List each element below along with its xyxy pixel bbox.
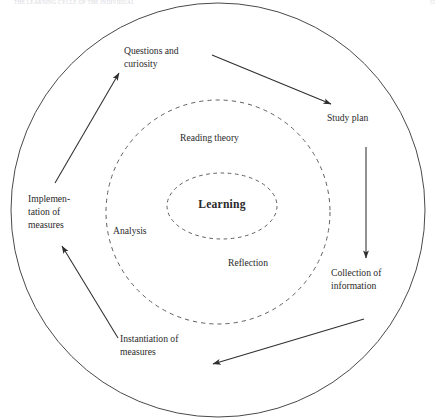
label-reading-theory: Reading theory [180,131,280,144]
label-questions-and-curiosity: Questions and curiosity [124,44,220,70]
arrow-instantiation-to-implementation [62,246,118,338]
label-collection-of-information: Collection of information [331,266,413,292]
label-learning-center: Learning [166,198,278,211]
arrow-collection-to-instantiation [213,319,364,364]
label-implementation-of-measures: Implemen- tation of measures [28,192,90,232]
label-instantiation-of-measures: Instantiation of measures [120,332,220,358]
arrow-questions-to-study-plan [212,55,331,104]
label-analysis: Analysis [113,224,183,237]
label-reflection: Reflection [228,256,306,269]
arrow-implementation-to-questions [55,73,119,183]
label-study-plan: Study plan [327,111,405,124]
figure-page: THE LEARNING CYCLE OF THE INDIVIDUAL 35 … [0,0,443,419]
